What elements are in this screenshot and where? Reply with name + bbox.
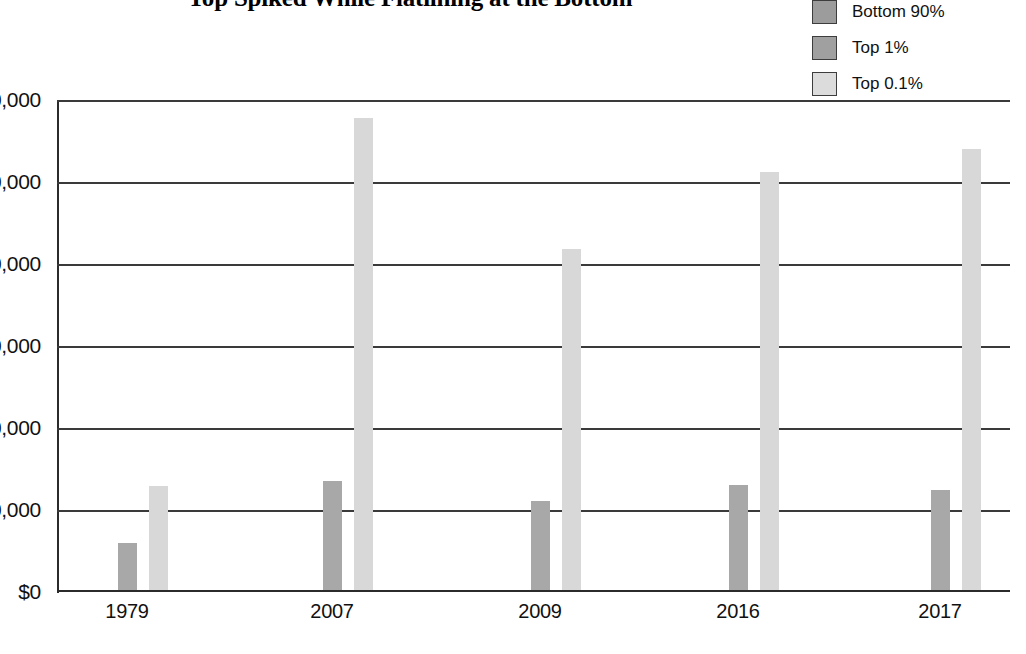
x-tick-label: 2017	[918, 600, 961, 623]
bar	[531, 501, 550, 592]
x-tick-label: 1979	[105, 600, 148, 623]
bar	[323, 481, 342, 592]
legend-item-bottom90: Bottom 90%	[812, 0, 1026, 30]
legend-swatch-top01-icon	[812, 72, 837, 96]
bar	[354, 118, 373, 592]
y-tick-label: 0,000	[0, 88, 41, 112]
x-axis-baseline	[57, 590, 1010, 592]
gridline	[57, 100, 1010, 102]
legend-swatch-top1-icon	[812, 36, 837, 60]
y-axis-tick-labels: 0,0000,0000,0000,0000,0000,000$0	[0, 100, 49, 593]
legend-label-top01: Top 0.1%	[852, 74, 923, 94]
y-tick-label: $0	[18, 580, 41, 604]
y-tick-label: 0,000	[0, 498, 41, 522]
bar	[118, 543, 137, 592]
bar	[760, 172, 779, 592]
gridline	[57, 264, 1010, 266]
y-tick-label: 0,000	[0, 252, 41, 276]
chart-legend: Bottom 90% Top 1% Top 0.1%	[812, 0, 1026, 102]
legend-label-top1: Top 1%	[852, 38, 909, 58]
footer-space	[0, 634, 1026, 654]
chart-title: Top Spiked While Flatlining at the Botto…	[0, 0, 820, 12]
gridline	[57, 346, 1010, 348]
bar	[729, 485, 748, 592]
bar	[962, 149, 981, 592]
x-tick-label: 2007	[310, 600, 353, 623]
x-tick-label: 2016	[716, 600, 759, 623]
plot-area	[57, 100, 1010, 592]
gridline	[57, 182, 1010, 184]
x-tick-label: 2009	[518, 600, 561, 623]
legend-item-top01: Top 0.1%	[812, 66, 1026, 102]
gridline	[57, 428, 1010, 430]
y-tick-label: 0,000	[0, 416, 41, 440]
bar	[149, 486, 168, 592]
y-tick-label: 0,000	[0, 170, 41, 194]
bar	[562, 249, 581, 592]
bar	[931, 490, 950, 592]
legend-item-top1: Top 1%	[812, 30, 1026, 66]
legend-swatch-bottom90-icon	[812, 0, 837, 24]
y-tick-label: 0,000	[0, 334, 41, 358]
legend-label-bottom90: Bottom 90%	[852, 2, 945, 22]
